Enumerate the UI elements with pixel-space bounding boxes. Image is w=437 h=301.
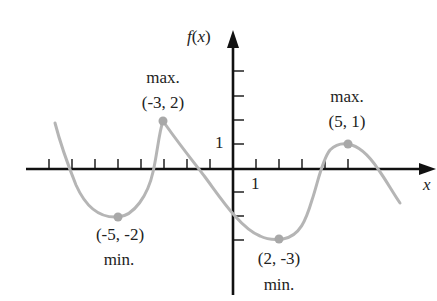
max-point-neg3-2: [159, 117, 168, 126]
max1-point-label: (-3, 2): [132, 94, 194, 112]
min2-point-label: (2, -3): [247, 250, 311, 268]
max2-title: max.: [322, 88, 372, 106]
y-tick-label-1: 1: [215, 134, 224, 152]
y-axis-label: f(x): [187, 28, 211, 46]
max1-title: max.: [138, 69, 188, 87]
min2-title: min.: [254, 276, 304, 294]
x-tick-label-1: 1: [251, 175, 260, 193]
min1-point-label: (-5, -2): [84, 226, 156, 244]
function-curve: [55, 121, 400, 240]
y-axis-arrow-icon: [227, 30, 239, 48]
min-point-neg5-neg2: [114, 213, 123, 222]
x-axis-label: x: [423, 176, 431, 194]
max2-point-label: (5, 1): [318, 113, 376, 131]
min1-title: min.: [94, 251, 144, 269]
max-point-5-1: [344, 140, 353, 149]
min-point-2-neg3: [275, 235, 284, 244]
x-axis-arrow-icon: [419, 163, 436, 175]
